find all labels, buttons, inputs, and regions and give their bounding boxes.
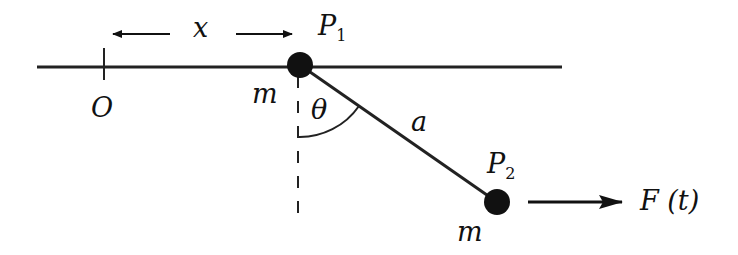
angle-arc: [298, 106, 359, 137]
force-label-arg: (t): [667, 185, 699, 216]
p2-label: P2: [487, 150, 515, 182]
p1-mass-label: m: [252, 80, 278, 107]
p2-label-sub: 2: [505, 164, 515, 183]
force-label: F (t): [640, 187, 699, 214]
p1-label-sub: 1: [336, 26, 346, 45]
particle-p2: [484, 189, 510, 215]
origin-label: O: [91, 94, 113, 121]
force-label-main: F: [640, 185, 659, 216]
p1-label: P1: [318, 12, 346, 44]
diagram-graphics: [0, 0, 738, 255]
angle-label: θ: [311, 96, 327, 123]
p2-label-main: P: [487, 148, 505, 179]
p1-label-main: P: [318, 10, 336, 41]
rod-line: [300, 65, 497, 202]
pendulum-diagram: x P1 O m θ a P2 m F (t): [0, 0, 738, 255]
particle-p1: [287, 52, 313, 78]
rod-length-label: a: [411, 108, 427, 135]
x-label: x: [193, 14, 208, 41]
p2-mass-label: m: [457, 218, 483, 245]
